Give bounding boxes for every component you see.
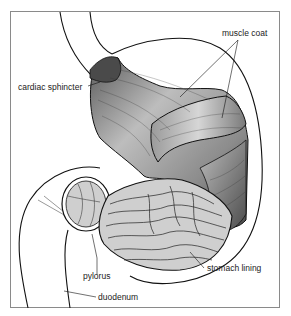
label-stomach-lining: stomach lining — [207, 263, 261, 273]
label-duodenum: duodenum — [98, 292, 138, 302]
label-cardiac-sphincter: cardiac sphincter — [18, 82, 82, 92]
cardiac-sphincter-ring — [90, 57, 121, 82]
label-pylorus: pylorus — [83, 271, 110, 281]
label-muscle-coat: muscle coat — [222, 28, 267, 38]
